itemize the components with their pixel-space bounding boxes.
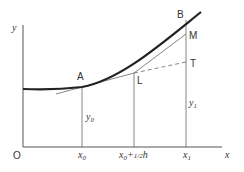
- x0-tick-label: x0: [77, 149, 86, 162]
- x1-tick-label: x1: [182, 149, 191, 162]
- point-A-label: A: [77, 71, 84, 82]
- y1-label: y1: [188, 97, 197, 110]
- point-L-label: L: [137, 75, 143, 86]
- numerical-method-diagram: y x O A B L M T y0 y1 x0 x0+1/2h x1: [0, 0, 244, 172]
- point-B-label: B: [177, 9, 184, 20]
- curve: [23, 12, 201, 89]
- y-axis-label: y: [11, 22, 17, 33]
- x-axis-label: x: [224, 149, 230, 160]
- origin-label: O: [13, 150, 21, 161]
- point-T-label: T: [190, 58, 196, 69]
- y0-label: y0: [85, 111, 94, 124]
- xmid-tick-label: x0+1/2h: [118, 149, 148, 162]
- chord-LM: [134, 34, 186, 73]
- point-M-label: M: [189, 30, 197, 41]
